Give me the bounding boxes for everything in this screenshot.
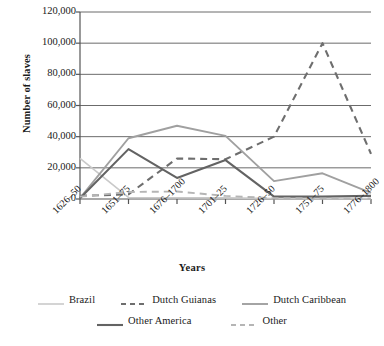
- legend-swatch-icon: [242, 295, 268, 305]
- legend-item[interactable]: Dutch Caribbean: [242, 294, 346, 305]
- legend-row: Other AmericaOther: [0, 310, 384, 331]
- series-line-dutch-guianas: [80, 43, 371, 196]
- legend-label: Other: [262, 315, 286, 326]
- legend-swatch-icon: [38, 295, 64, 305]
- legend-item[interactable]: Dutch Guianas: [121, 294, 216, 305]
- legend-swatch-icon: [121, 295, 147, 305]
- x-axis-title: Years: [0, 262, 384, 273]
- legend-swatch-icon: [97, 316, 123, 326]
- legend-row: BrazilDutch GuianasDutch Caribbean: [0, 289, 384, 310]
- legend-label: Dutch Caribbean: [273, 294, 346, 305]
- chart-figure: Number of slaves 020,00040,00060,00080,0…: [0, 0, 384, 346]
- chart-legend: BrazilDutch GuianasDutch Caribbean Other…: [0, 289, 384, 331]
- legend-label: Other America: [128, 315, 191, 326]
- legend-item[interactable]: Other America: [97, 315, 191, 326]
- legend-item[interactable]: Brazil: [38, 294, 95, 305]
- legend-swatch-icon: [231, 316, 257, 326]
- legend-label: Dutch Guianas: [152, 294, 216, 305]
- legend-item[interactable]: Other: [231, 315, 286, 326]
- data-series-group: [80, 43, 371, 199]
- legend-label: Brazil: [69, 294, 95, 305]
